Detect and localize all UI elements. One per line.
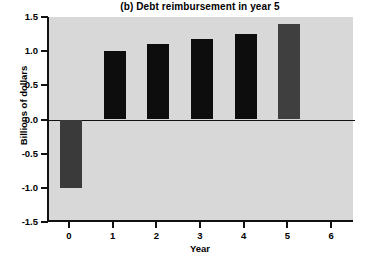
x-tick-label-1: 1 (98, 230, 128, 241)
bar-year-1 (104, 51, 126, 119)
x-tick-label-5: 5 (272, 230, 302, 241)
x-tick-0 (68, 222, 70, 228)
x-tick-6 (330, 222, 332, 228)
bar-year-5 (278, 24, 300, 120)
chart-title: (b) Debt reimbursement in year 5 (47, 1, 353, 12)
x-tick-label-0: 0 (54, 230, 84, 241)
bar-year-4 (235, 34, 257, 119)
y-tick-label-0.5: 0.5 (0, 79, 38, 90)
x-tick-2 (155, 222, 157, 228)
bar-year-3 (191, 39, 213, 120)
y-tick-label-0.0: 0.0 (0, 114, 38, 125)
y-tick-label--1.0: -1.0 (0, 182, 38, 193)
x-tick-label-2: 2 (141, 230, 171, 241)
x-axis-title: Year (47, 243, 353, 254)
x-tick-3 (199, 222, 201, 228)
y-tick-label-1.0: 1.0 (0, 45, 38, 56)
bar-year-0 (60, 120, 82, 188)
y-tick-label-1.5: 1.5 (0, 11, 38, 22)
x-tick-label-6: 6 (316, 230, 346, 241)
bar-year-2 (147, 44, 169, 119)
x-tick-5 (286, 222, 288, 228)
x-tick-label-3: 3 (185, 230, 215, 241)
y-tick-label--1.5: -1.5 (0, 216, 38, 227)
x-tick-4 (243, 222, 245, 228)
x-tick-label-4: 4 (229, 230, 259, 241)
zero-baseline (49, 120, 355, 121)
chart-figure: (b) Debt reimbursement in year 5 Billion… (0, 0, 378, 264)
x-tick-1 (112, 222, 114, 228)
plot-area (47, 17, 353, 222)
y-tick-label--0.5: -0.5 (0, 148, 38, 159)
